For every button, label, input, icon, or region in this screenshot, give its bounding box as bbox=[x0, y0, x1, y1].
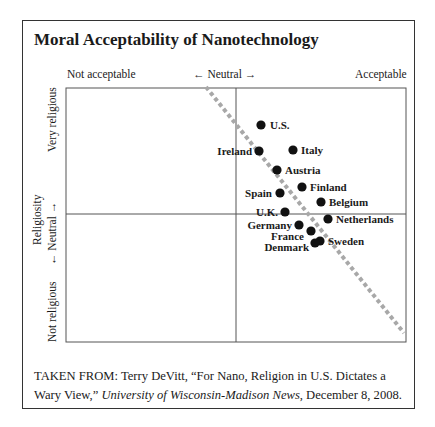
data-point bbox=[272, 165, 281, 174]
point-label: Finland bbox=[310, 181, 347, 193]
point-label: Austria bbox=[285, 164, 321, 176]
source-caption: TAKEN FROM: Terry DeVitt, “For Nano, Rel… bbox=[34, 367, 409, 405]
data-point bbox=[288, 145, 297, 154]
data-point bbox=[294, 220, 303, 229]
data-point bbox=[280, 207, 289, 216]
point-label: Belgium bbox=[329, 196, 368, 208]
point-label: U.K. bbox=[256, 206, 278, 218]
data-point bbox=[310, 238, 319, 247]
point-label: Spain bbox=[245, 187, 272, 199]
data-point bbox=[256, 120, 265, 129]
data-point bbox=[254, 146, 263, 155]
point-label: Denmark bbox=[264, 241, 309, 253]
data-point bbox=[306, 226, 315, 235]
data-point bbox=[323, 214, 332, 223]
data-points: U.S.IrelandItalyAustriaFinlandSpainBelgi… bbox=[217, 119, 394, 253]
point-label: Netherlands bbox=[336, 213, 394, 225]
caption-publication: University of Wisconsin-Madison News bbox=[101, 388, 299, 402]
point-label: Italy bbox=[301, 144, 324, 156]
scatter-plot: U.S.IrelandItalyAustriaFinlandSpainBelgi… bbox=[0, 0, 435, 427]
data-point bbox=[297, 182, 306, 191]
data-point bbox=[316, 197, 325, 206]
point-label: U.S. bbox=[270, 119, 290, 131]
point-label: Sweden bbox=[328, 235, 364, 247]
data-point bbox=[275, 188, 284, 197]
point-label: Ireland bbox=[217, 145, 252, 157]
caption-suffix: , December 8, 2008. bbox=[300, 388, 402, 402]
